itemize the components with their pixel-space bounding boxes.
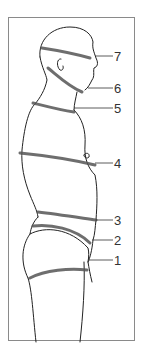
band-7-head	[42, 48, 90, 58]
label-3: 3	[114, 214, 121, 227]
nipple-mark	[84, 153, 89, 158]
torso-back	[22, 104, 38, 217]
leg-front	[80, 262, 84, 342]
body-figure-illustration	[0, 0, 146, 358]
band-3-waist	[38, 212, 96, 220]
hip-front	[88, 220, 96, 282]
label-5: 5	[114, 102, 121, 115]
band-5-neck-base	[33, 103, 74, 112]
label-2: 2	[114, 234, 121, 247]
label-1: 1	[114, 254, 121, 267]
band-2-hip	[33, 226, 90, 243]
label-4: 4	[114, 157, 121, 170]
leg-back	[28, 278, 36, 342]
ear-icon	[57, 59, 63, 70]
label-6: 6	[114, 82, 121, 95]
neck-back	[35, 57, 47, 104]
label-7: 7	[114, 50, 121, 63]
band-6-chin	[48, 68, 82, 92]
band-1-thigh	[30, 269, 87, 278]
neck-front	[74, 92, 77, 110]
